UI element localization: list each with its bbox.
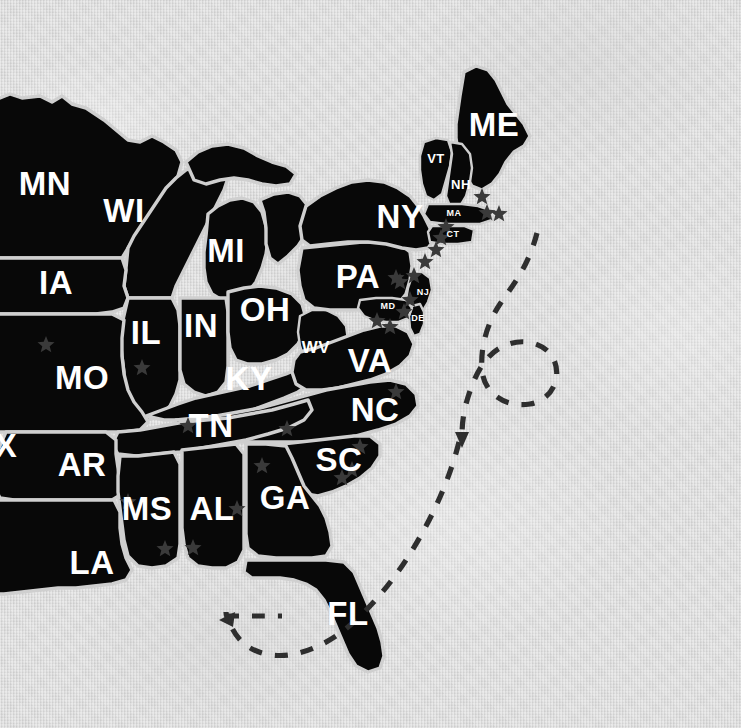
star-marker[interactable] [416,253,433,269]
star-marker[interactable] [490,205,507,221]
state-label-il[interactable]: IL [131,314,161,351]
atlantic-loop-route[interactable] [462,233,557,438]
state-label-ct[interactable]: CT [447,229,460,239]
us-states-map: MNWIMIIAILINOHMOKYTNARMSALLAGASCNCVAPANY… [0,0,741,728]
state-label-me[interactable]: ME [469,106,520,143]
state-shape-mi-upper[interactable] [186,144,296,186]
state-label-de[interactable]: DE [411,313,425,323]
state-label-fl[interactable]: FL [327,595,368,632]
map-canvas: MNWIMIIAILINOHMOKYTNARMSALLAGASCNCVAPANY… [0,0,741,728]
state-label-md[interactable]: MD [381,301,396,311]
state-label-ga[interactable]: GA [260,479,311,516]
state-label-tn[interactable]: TN [189,407,234,444]
state-label-nj[interactable]: NJ [417,287,430,297]
state-label-la[interactable]: LA [70,544,115,581]
state-label-ms[interactable]: MS [122,490,173,527]
state-label-in[interactable]: IN [184,307,218,344]
state-label-ny[interactable]: NY [377,198,424,235]
state-label-x[interactable]: X [0,427,17,464]
state-label-mo[interactable]: MO [55,359,109,396]
state-label-va[interactable]: VA [348,342,392,379]
state-label-wi[interactable]: WI [103,192,144,229]
state-label-sc[interactable]: SC [316,441,363,478]
state-label-mi[interactable]: MI [207,232,245,269]
state-label-al[interactable]: AL [190,490,235,527]
state-label-ar[interactable]: AR [58,446,107,483]
state-label-vt[interactable]: VT [427,151,445,166]
state-label-ma[interactable]: MA [447,208,462,218]
state-label-pa[interactable]: PA [336,258,380,295]
state-label-oh[interactable]: OH [240,291,291,328]
state-label-nc[interactable]: NC [351,391,400,428]
state-label-ia[interactable]: IA [39,264,73,301]
star-marker[interactable] [473,188,490,204]
state-label-nh[interactable]: NH [451,177,471,192]
state-label-wv[interactable]: WV [302,338,331,357]
state-label-ky[interactable]: KY [226,360,273,397]
state-label-mn[interactable]: MN [19,165,71,202]
